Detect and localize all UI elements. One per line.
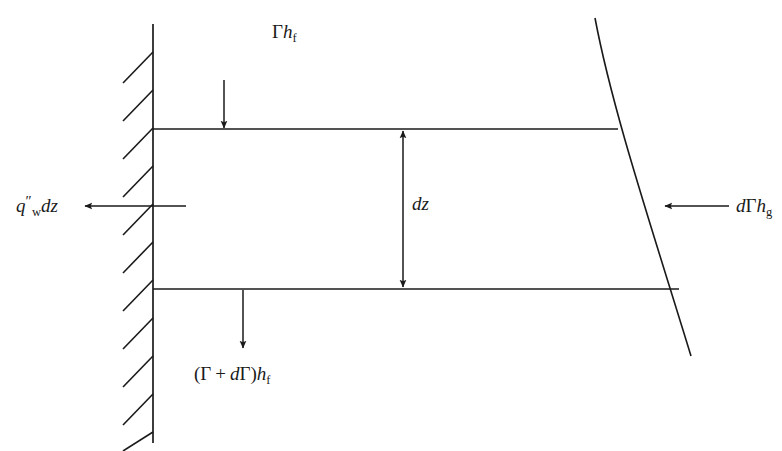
- vapor-d-symbol: d: [736, 195, 746, 216]
- wall-heat-flux-label: q″wdz: [16, 196, 58, 215]
- dz-height-label: dz: [412, 194, 429, 213]
- wall-hatching: [123, 52, 153, 451]
- outlet-gamma-symbol: Γ: [200, 363, 211, 384]
- film-interface-curve: [595, 18, 691, 356]
- heat-flux-q-symbol: q: [16, 195, 26, 216]
- dz-z-symbol: z: [422, 193, 429, 214]
- vapor-h-subscript: g: [766, 205, 772, 219]
- heat-flux-dz-term: dz: [41, 195, 58, 216]
- dz-d-symbol: d: [412, 193, 422, 214]
- heat-flux-wall-subscript: w: [32, 205, 41, 219]
- vapor-gamma-symbol: Γ: [746, 195, 757, 216]
- diagram-canvas: [0, 0, 782, 451]
- outlet-h-subscript: f: [266, 373, 270, 387]
- inlet-h-subscript: f: [292, 31, 296, 45]
- outlet-flow-label: (Γ+dΓ)hf: [194, 364, 271, 383]
- vapor-h-symbol: h: [756, 195, 766, 216]
- inlet-flow-label: Γhf: [272, 22, 297, 41]
- outlet-plus-sign: +: [211, 363, 230, 384]
- outlet-h-symbol: h: [257, 363, 267, 384]
- outlet-gamma-increment-symbol: Γ: [240, 363, 251, 384]
- vapor-flow-label: dΓhg: [736, 196, 772, 215]
- falling-film-diagram: Γhf q″wdz dz dΓhg (Γ+dΓ)hf: [0, 0, 782, 451]
- outlet-d-symbol: d: [230, 363, 240, 384]
- inlet-gamma-symbol: Γ: [272, 21, 283, 42]
